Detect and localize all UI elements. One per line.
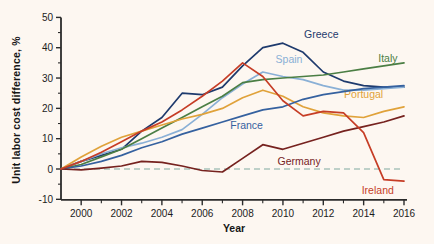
- unit-labor-cost-chart: -100102030405020002002200420062008201020…: [0, 0, 434, 244]
- x-tick-label: 2016: [393, 208, 416, 219]
- x-tick-label: 2014: [353, 208, 376, 219]
- y-tick-label: 50: [42, 12, 54, 23]
- x-tick-label: 2008: [231, 208, 254, 219]
- y-tick-label: 0: [47, 164, 53, 175]
- series-label-germany: Germany: [277, 155, 321, 167]
- y-tick-label: 30: [42, 73, 54, 84]
- series-label-italy: Italy: [378, 52, 398, 64]
- y-tick-label: 10: [42, 133, 54, 144]
- y-tick-label: 20: [42, 103, 54, 114]
- x-axis-title: Year: [61, 222, 407, 234]
- series-label-france: France: [230, 119, 263, 131]
- x-tick-label: 2000: [70, 208, 93, 219]
- y-tick-label: -10: [39, 194, 54, 205]
- line-chart-canvas: -100102030405020002002200420062008201020…: [0, 0, 434, 244]
- series-label-ireland: Ireland: [362, 184, 394, 196]
- series-label-spain: Spain: [276, 53, 303, 65]
- x-tick-label: 2012: [312, 208, 335, 219]
- y-axis-title: Unit labor cost difference, %: [10, 30, 22, 190]
- y-tick-label: 40: [42, 42, 54, 53]
- x-tick-label: 2006: [191, 208, 214, 219]
- series-label-greece: Greece: [304, 28, 339, 40]
- x-tick-label: 2002: [110, 208, 133, 219]
- x-tick-label: 2010: [272, 208, 295, 219]
- x-tick-label: 2004: [151, 208, 174, 219]
